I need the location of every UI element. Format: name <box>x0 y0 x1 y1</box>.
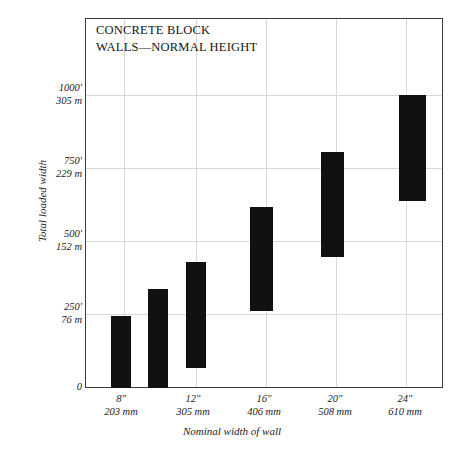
chart-title: CONCRETE BLOCK WALLS—NORMAL HEIGHT <box>96 22 257 56</box>
y-axis-tick-labels: 1000' 305 m 750' 229 m 500' 152 m 250' 7… <box>8 0 82 454</box>
bar-range-5 <box>321 152 344 257</box>
gridline-v-5 <box>406 19 407 387</box>
gridline-h-1000 <box>86 95 442 96</box>
bar-range-2 <box>148 289 168 388</box>
y-tick-250: 250' 76 m <box>12 301 82 326</box>
chart-figure: Total loaded width 1000' 305 m 750' 229 … <box>0 0 464 454</box>
bar-range-6 <box>399 95 426 201</box>
y-tick-500: 500' 152 m <box>12 228 82 253</box>
y-tick-1000: 1000' 305 m <box>12 82 82 107</box>
gridline-v-3 <box>266 19 267 387</box>
bar-range-4 <box>250 207 273 311</box>
x-axis-tick-labels: 8" 203 mm 12" 305 mm 16" 406 mm 20" 508 … <box>0 392 464 426</box>
y-tick-750: 750' 229 m <box>12 155 82 180</box>
plot-area <box>85 18 443 388</box>
gridline-h-750 <box>86 168 442 169</box>
x-tick-24in: 24" 610 mm <box>360 392 450 418</box>
gridline-h-250 <box>86 314 442 315</box>
bar-range-1 <box>111 316 131 388</box>
x-axis-title: Nominal width of wall <box>0 425 464 437</box>
bar-range-3 <box>186 262 206 368</box>
